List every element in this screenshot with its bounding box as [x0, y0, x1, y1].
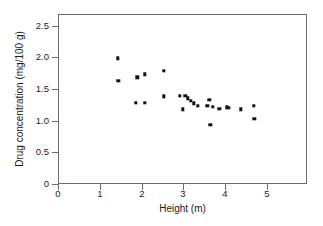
data-point: [196, 104, 199, 107]
data-point: [208, 123, 211, 126]
data-point: [208, 98, 211, 101]
x-tick-label-2: 2: [132, 189, 152, 199]
data-point: [227, 106, 230, 109]
y-tick-label-1.0: 1.0: [36, 116, 49, 126]
data-point: [206, 104, 209, 107]
data-point: [239, 107, 242, 110]
x-tick-label-0: 0: [48, 189, 68, 199]
x-tick-label-5: 5: [257, 189, 277, 199]
y-tick-label-0: 0: [44, 179, 49, 189]
data-point: [252, 104, 255, 107]
data-point: [181, 107, 184, 110]
plot-data-area: [58, 14, 307, 184]
x-tick-label-4: 4: [215, 189, 235, 199]
data-point: [211, 105, 214, 108]
scatter-plot-figure: 2.5 2.0 1.5 1.0 0.5 0 0 1 2 3 4 5 Height…: [0, 0, 323, 226]
x-tick-label-3: 3: [173, 189, 193, 199]
data-point: [116, 57, 119, 60]
y-tick-label-1.5: 1.5: [36, 84, 49, 94]
data-point: [143, 73, 146, 76]
data-point: [162, 69, 165, 72]
data-point: [178, 94, 181, 97]
data-point: [117, 79, 120, 82]
y-tick-label-2.5: 2.5: [36, 21, 49, 31]
data-point: [134, 101, 137, 104]
y-tick-label-0.5: 0.5: [36, 147, 49, 157]
x-axis-title: Height (m): [58, 203, 307, 214]
data-point: [143, 101, 146, 104]
y-tick-label-2.0: 2.0: [36, 52, 49, 62]
data-point: [253, 117, 256, 120]
data-point: [136, 76, 139, 79]
x-tick-label-1: 1: [90, 189, 110, 199]
data-point: [162, 95, 165, 98]
data-point: [218, 107, 221, 110]
y-axis-title: Drug concentration (mg/100 g): [14, 14, 28, 184]
